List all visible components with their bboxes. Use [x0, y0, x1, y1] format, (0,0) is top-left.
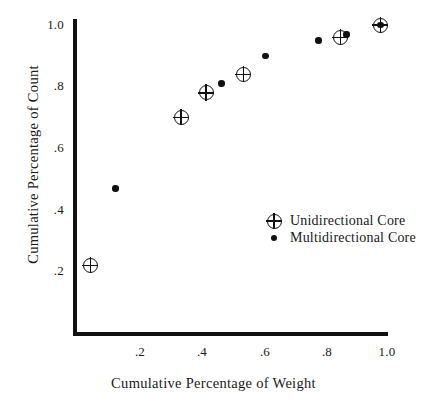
scatter-plot-figure: 1.0 .8 .6 .4 .2 .2 .4 .6 .8 1.0 Cumulati… — [0, 0, 427, 406]
data-point-multidirectional[interactable] — [262, 53, 269, 60]
circled-plus-icon — [262, 213, 286, 229]
data-point-multidirectional[interactable] — [112, 185, 119, 192]
y-axis-line — [73, 19, 77, 336]
data-point-multidirectional[interactable] — [315, 37, 322, 44]
legend-label-multidirectional: Multidirectional Core — [286, 230, 416, 246]
x-tick-label-5: 1.0 — [367, 344, 407, 360]
data-point-unidirectional[interactable] — [236, 67, 251, 82]
legend-item-unidirectional[interactable]: Unidirectional Core — [262, 213, 416, 229]
x-axis-line — [73, 332, 388, 336]
x-tick-label-1: .2 — [120, 344, 160, 360]
x-tick-label-4: .8 — [307, 344, 347, 360]
data-point-unidirectional[interactable] — [174, 110, 189, 125]
legend-label-unidirectional: Unidirectional Core — [286, 213, 405, 229]
data-point-unidirectional[interactable] — [199, 85, 214, 100]
data-point-multidirectional[interactable] — [218, 80, 225, 87]
data-point-multidirectional[interactable] — [343, 31, 350, 38]
data-point-unidirectional[interactable] — [83, 258, 98, 273]
legend: Unidirectional Core Multidirectional Cor… — [262, 213, 416, 247]
x-axis-title: Cumulative Percentage of Weight — [0, 375, 427, 392]
legend-item-multidirectional[interactable]: Multidirectional Core — [262, 230, 416, 246]
filled-circle-icon — [262, 230, 286, 246]
y-axis-title: Cumulative Percentage of Count — [25, 15, 42, 315]
x-tick-label-2: .4 — [182, 344, 222, 360]
x-tick-label-3: .6 — [245, 344, 285, 360]
